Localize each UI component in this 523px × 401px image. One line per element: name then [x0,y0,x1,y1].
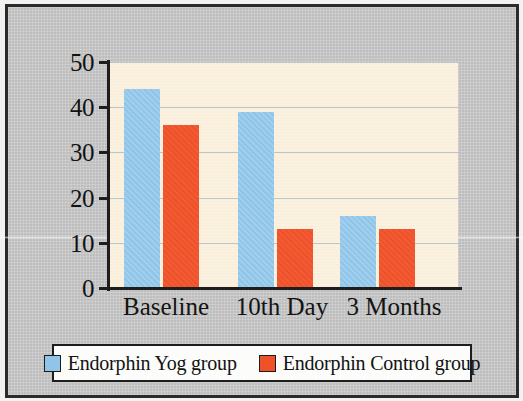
legend-swatch-red-icon [259,355,276,372]
y-tick-label-50: 50 [48,50,94,75]
legend-entry-yog-group[interactable]: Endorphin Yog group [44,353,237,373]
y-tick-label-0: 0 [48,276,94,301]
x-label-baseline: Baseline [104,292,228,322]
grouped-bar-chart: 50 40 30 20 10 0 Baseline 10th Day 3 Mon… [0,0,523,401]
chart-legend: Endorphin Yog group Endorphin Control gr… [52,344,472,382]
y-tick-label-10: 10 [48,231,94,256]
legend-label-yog-group: Endorphin Yog group [68,353,237,373]
bars-layer [110,62,458,288]
bar-baseline-yog[interactable] [124,89,160,288]
y-tick-mark-40 [99,106,108,109]
y-tick-label-30: 30 [48,140,94,165]
legend-label-control-group: Endorphin Control group [283,353,481,373]
scanned-page: 50 40 30 20 10 0 Baseline 10th Day 3 Mon… [0,0,523,401]
bar-10th-day-control[interactable] [277,229,313,288]
x-label-3-months: 3 Months [332,292,456,322]
x-axis-tick-labels: Baseline 10th Day 3 Months [104,292,464,326]
bar-3-months-yog[interactable] [340,216,376,288]
x-label-10th-day: 10th Day [226,292,338,322]
y-axis-tick-labels: 50 40 30 20 10 0 [42,0,94,401]
y-tick-mark-50 [99,61,108,64]
y-axis-line [107,60,110,291]
bar-10th-day-yog[interactable] [238,112,274,288]
legend-swatch-blue-icon [44,355,61,372]
y-tick-mark-10 [99,242,108,245]
legend-entry-control-group[interactable]: Endorphin Control group [259,353,481,373]
bar-3-months-control[interactable] [379,229,415,288]
y-tick-label-20: 20 [48,186,94,211]
y-tick-label-40: 40 [48,95,94,120]
x-axis-line [104,287,462,290]
y-tick-mark-0 [99,287,108,290]
y-tick-mark-20 [99,197,108,200]
bar-baseline-control[interactable] [163,125,199,288]
y-tick-mark-30 [99,151,108,154]
